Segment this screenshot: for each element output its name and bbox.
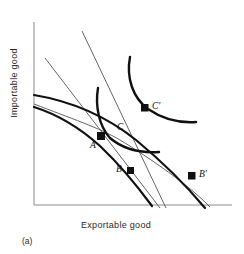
price-line-trade (82, 31, 166, 208)
point-label-C-prime: C' (152, 101, 160, 111)
marker-point-B-prime (188, 172, 196, 180)
point-label-A: A (90, 140, 96, 150)
point-markers-group (97, 104, 196, 180)
panel-caption: (a) (22, 236, 32, 246)
y-axis-label: Importable good (9, 43, 19, 123)
point-label-B-prime: B' (199, 169, 207, 179)
marker-point-B (127, 167, 134, 174)
indifference-curve-outer (129, 57, 196, 122)
point-label-B: B (116, 164, 122, 174)
marker-point-C-prime (141, 104, 149, 112)
marker-point-A-C (97, 132, 105, 140)
x-axis-label: Exportable good (56, 220, 176, 230)
ppf-inner-curve (34, 107, 152, 206)
figure-panel-a: C A B C' B' Importable good Exportable g… (0, 0, 244, 254)
price-lines-group (34, 31, 210, 208)
price-line-trade-outer (34, 104, 210, 207)
ppf-outer-curve (34, 95, 205, 208)
ppf-group (34, 95, 205, 208)
point-label-C: C (117, 122, 123, 132)
